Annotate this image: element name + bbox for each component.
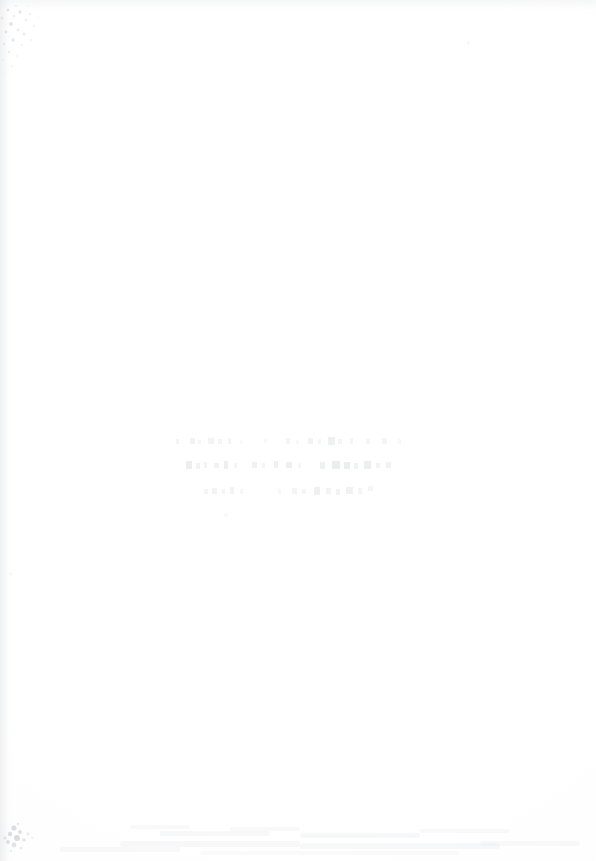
faint-stamp-block bbox=[168, 432, 432, 518]
smudge-bottom-band bbox=[0, 791, 596, 861]
speck-top-right bbox=[467, 41, 470, 45]
stamp-line-1 bbox=[168, 434, 432, 449]
top-edge-shading bbox=[0, 0, 596, 10]
stamp-line-3 bbox=[168, 484, 432, 499]
speckle-top-left-artifact bbox=[0, 0, 120, 120]
left-edge-shading bbox=[0, 0, 16, 861]
stamp-line-1-marks bbox=[168, 434, 432, 449]
scanned-page bbox=[0, 0, 596, 861]
mark-bottom-left bbox=[0, 812, 56, 858]
stamp-line-3-marks bbox=[168, 484, 432, 499]
speck-left-mid bbox=[9, 572, 12, 575]
stamp-line-2 bbox=[168, 458, 432, 473]
speck-below-stamp bbox=[224, 513, 228, 517]
paper-background bbox=[0, 0, 596, 861]
stamp-line-2-marks bbox=[168, 458, 432, 473]
